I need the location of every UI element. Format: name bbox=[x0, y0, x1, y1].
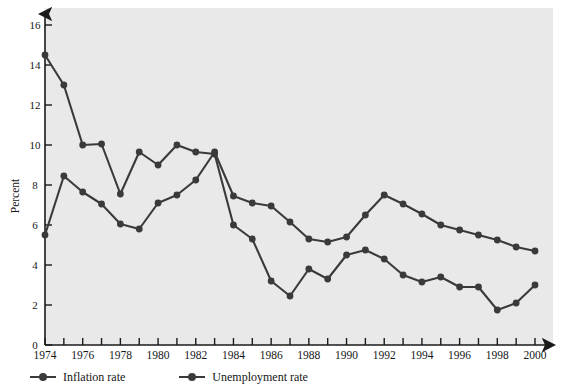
data-point bbox=[98, 201, 105, 208]
legend-label-inflation-rate: Inflation rate bbox=[63, 370, 125, 385]
legend-marker-icon bbox=[179, 371, 205, 383]
y-tick-label: 16 bbox=[30, 19, 42, 31]
data-point bbox=[287, 293, 294, 300]
data-point bbox=[174, 192, 181, 199]
data-point bbox=[456, 284, 463, 291]
data-point bbox=[324, 239, 331, 246]
legend-item-inflation-rate[interactable]: Inflation rate bbox=[30, 370, 125, 385]
data-point bbox=[98, 141, 105, 148]
y-axis-ticks bbox=[45, 25, 52, 345]
data-point bbox=[362, 247, 369, 254]
x-tick-label: 1992 bbox=[373, 349, 396, 361]
legend-marker-icon bbox=[30, 371, 56, 383]
data-point bbox=[230, 222, 237, 229]
data-point bbox=[42, 232, 49, 239]
data-point bbox=[42, 52, 49, 59]
data-point bbox=[192, 149, 199, 156]
data-point bbox=[79, 142, 86, 149]
data-point bbox=[400, 272, 407, 279]
y-tick-label: 10 bbox=[30, 139, 42, 151]
x-tick-label: 1990 bbox=[335, 349, 358, 361]
data-point bbox=[362, 212, 369, 219]
data-point bbox=[305, 236, 312, 243]
x-tick-label: 1976 bbox=[71, 349, 94, 361]
data-point bbox=[324, 276, 331, 283]
data-point bbox=[419, 211, 426, 218]
data-point bbox=[136, 149, 143, 156]
data-point bbox=[79, 189, 86, 196]
data-point bbox=[343, 252, 350, 259]
data-point bbox=[305, 266, 312, 273]
data-point bbox=[287, 219, 294, 226]
x-tick-label: 1982 bbox=[184, 349, 207, 361]
data-point bbox=[513, 300, 520, 307]
data-point bbox=[494, 237, 501, 244]
y-axis-tick-labels: 0246810121416 bbox=[30, 19, 42, 351]
data-point bbox=[249, 236, 256, 243]
x-axis-tick-labels: 1974197619781980198219841986198819901992… bbox=[34, 349, 547, 361]
data-point bbox=[475, 284, 482, 291]
series-path bbox=[45, 55, 535, 310]
data-point bbox=[117, 191, 124, 198]
data-point bbox=[268, 203, 275, 210]
y-axis-title: Percent bbox=[9, 178, 21, 213]
x-tick-label: 1980 bbox=[147, 349, 170, 361]
x-tick-label: 1986 bbox=[260, 349, 283, 361]
data-point bbox=[136, 226, 143, 233]
data-point bbox=[268, 278, 275, 285]
x-tick-label: 2000 bbox=[524, 349, 547, 361]
x-tick-label: 1998 bbox=[486, 349, 509, 361]
y-tick-label: 2 bbox=[32, 299, 38, 311]
legend-label-unemployment-rate: Unemployment rate bbox=[212, 370, 308, 385]
data-point bbox=[211, 149, 218, 156]
data-point bbox=[419, 279, 426, 286]
x-tick-label: 1984 bbox=[222, 349, 245, 361]
data-point bbox=[192, 177, 199, 184]
data-point bbox=[174, 142, 181, 149]
data-point bbox=[60, 173, 67, 180]
series-unemployment-rate bbox=[42, 149, 539, 255]
y-tick-label: 6 bbox=[32, 219, 38, 231]
y-tick-label: 8 bbox=[32, 179, 38, 191]
data-point bbox=[249, 200, 256, 207]
chart-canvas: 0246810121416 Percent 197419761978198019… bbox=[0, 0, 571, 392]
data-point bbox=[381, 192, 388, 199]
y-tick-label: 4 bbox=[32, 259, 38, 271]
data-point bbox=[155, 162, 162, 169]
data-point bbox=[381, 256, 388, 263]
legend-item-unemployment-rate[interactable]: Unemployment rate bbox=[179, 370, 308, 385]
series-inflation-rate bbox=[42, 52, 539, 314]
series-path bbox=[45, 152, 535, 251]
x-tick-label: 1978 bbox=[109, 349, 132, 361]
data-point bbox=[437, 274, 444, 281]
data-point bbox=[230, 193, 237, 200]
x-tick-label: 1974 bbox=[34, 349, 57, 361]
y-axis: 0246810121416 Percent bbox=[9, 14, 52, 351]
y-tick-label: 12 bbox=[30, 99, 41, 111]
x-axis: 1974197619781980198219841986198819901992… bbox=[34, 338, 550, 361]
data-point bbox=[400, 201, 407, 208]
data-point bbox=[117, 221, 124, 228]
y-tick-label: 14 bbox=[30, 59, 42, 71]
x-tick-label: 1988 bbox=[297, 349, 320, 361]
series-layer bbox=[42, 52, 539, 314]
data-point bbox=[155, 200, 162, 207]
data-point bbox=[532, 248, 539, 255]
data-point bbox=[437, 222, 444, 229]
data-point bbox=[532, 282, 539, 289]
x-tick-label: 1996 bbox=[448, 349, 471, 361]
data-point bbox=[343, 234, 350, 241]
chart-legend: Inflation rate Unemployment rate bbox=[0, 366, 571, 388]
data-point bbox=[60, 82, 67, 89]
data-point bbox=[513, 244, 520, 251]
data-point bbox=[475, 232, 482, 239]
data-point bbox=[494, 307, 501, 314]
data-point bbox=[456, 227, 463, 234]
chart-container: 0246810121416 Percent 197419761978198019… bbox=[0, 0, 571, 392]
x-tick-label: 1994 bbox=[410, 349, 433, 361]
x-axis-ticks bbox=[45, 338, 535, 345]
